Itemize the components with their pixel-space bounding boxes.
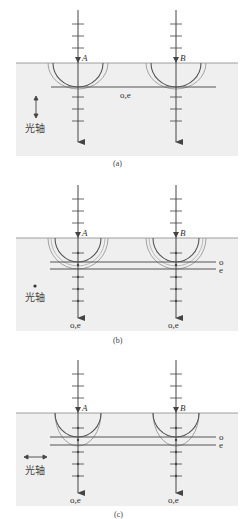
- optic-axis-label: 光轴: [25, 464, 45, 476]
- crystal-block: [16, 63, 238, 156]
- point-label-A: A: [81, 228, 88, 238]
- panel-c: o e A o,e B o,e 光轴 (c): [16, 360, 238, 519]
- exit-label-A: o,e: [70, 320, 81, 330]
- optic-axis-label: 光轴: [25, 291, 45, 303]
- exit-label-B: o,e: [168, 320, 179, 330]
- panel-b: o e A o,e B o,e 光轴 (b): [16, 185, 238, 345]
- point-label-A: A: [81, 403, 88, 413]
- caption-b: (b): [113, 336, 123, 345]
- wavefront-label: o,e: [120, 90, 131, 100]
- optic-axis-label: 光轴: [25, 122, 45, 134]
- optic-axis-dot-icon: [33, 284, 36, 287]
- panel-a: o,e A B 光轴 (a): [16, 10, 238, 168]
- crystal-block: [16, 413, 238, 506]
- point-label-B: B: [180, 403, 186, 413]
- wavefront-label-e: e: [219, 440, 223, 450]
- point-label-B: B: [180, 228, 186, 238]
- point-label-A: A: [81, 53, 88, 63]
- point-label-B: B: [180, 53, 186, 63]
- crystal-block: [16, 238, 238, 331]
- caption-c: (c): [114, 510, 123, 519]
- exit-label-A: o,e: [70, 495, 81, 505]
- exit-label-B: o,e: [168, 495, 179, 505]
- caption-a: (a): [113, 159, 122, 168]
- wavefront-label-e: e: [219, 265, 223, 275]
